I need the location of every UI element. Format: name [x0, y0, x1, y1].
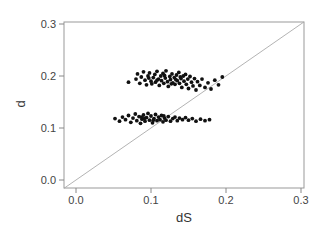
series-upper-cluster — [127, 69, 225, 92]
data-point — [162, 114, 166, 118]
data-point — [177, 71, 181, 75]
data-point — [150, 82, 154, 86]
data-point — [135, 119, 139, 123]
x-tick-label: 0.0 — [68, 194, 83, 206]
y-axis-label: d — [13, 100, 28, 107]
data-point — [187, 87, 191, 91]
y-tick-label: 0.0 — [41, 174, 56, 186]
data-point — [127, 114, 131, 118]
data-point — [148, 118, 152, 122]
data-point — [131, 116, 135, 120]
data-point — [173, 82, 177, 86]
data-point — [138, 81, 142, 85]
y-tick-label: 0.1 — [41, 122, 56, 134]
data-point — [190, 117, 194, 121]
data-point — [148, 71, 152, 75]
data-point — [198, 84, 202, 88]
data-point — [184, 73, 188, 77]
data-point — [166, 85, 170, 89]
data-point — [220, 75, 224, 79]
data-point — [143, 78, 147, 82]
data-point — [193, 77, 197, 81]
data-point — [134, 77, 138, 81]
data-point — [133, 112, 137, 116]
data-point — [139, 75, 143, 79]
data-point — [169, 82, 173, 86]
data-point — [170, 72, 174, 76]
x-axis-label: dS — [176, 210, 192, 225]
data-point — [149, 114, 153, 118]
x-tick-label: 0.3 — [293, 194, 308, 206]
data-point — [166, 115, 170, 119]
data-point — [146, 112, 150, 116]
data-point — [145, 83, 149, 87]
data-point — [208, 118, 212, 122]
data-point — [190, 80, 194, 84]
data-point — [188, 75, 192, 79]
data-point — [174, 78, 178, 82]
x-tick-label: 0.2 — [218, 194, 233, 206]
data-point — [113, 117, 117, 121]
scatter-chart: 0.00.10.20.3 0.00.10.20.3 dS d — [0, 0, 318, 232]
data-point — [178, 81, 182, 85]
data-point — [194, 88, 198, 92]
x-tick-label: 0.1 — [143, 194, 158, 206]
data-point — [209, 87, 213, 91]
data-point — [178, 75, 182, 79]
x-axis: 0.00.10.20.3 — [68, 188, 308, 206]
data-point — [203, 86, 207, 90]
y-tick-label: 0.3 — [41, 18, 56, 30]
data-point — [142, 70, 146, 74]
data-point — [139, 115, 143, 119]
data-point — [194, 119, 198, 123]
identity-line — [64, 22, 304, 188]
data-point — [164, 118, 168, 122]
data-point — [173, 115, 177, 119]
data-point — [200, 77, 204, 81]
data-point — [162, 81, 166, 85]
data-point — [191, 84, 195, 88]
data-point — [153, 73, 157, 77]
data-point — [203, 119, 207, 123]
data-point — [154, 113, 158, 117]
data-point — [184, 116, 188, 120]
data-points — [113, 69, 224, 125]
data-point — [147, 76, 151, 80]
data-point — [187, 118, 191, 122]
data-point — [213, 78, 217, 82]
data-point — [129, 120, 133, 124]
data-point — [163, 74, 167, 78]
data-point — [164, 69, 168, 73]
y-axis: 0.00.10.20.3 — [41, 18, 64, 186]
series-lower-cluster — [113, 112, 211, 126]
data-point — [155, 78, 159, 82]
identity-reference-line — [64, 22, 304, 188]
data-point — [196, 80, 200, 84]
data-point — [157, 84, 161, 88]
data-point — [206, 81, 210, 85]
data-point — [155, 69, 159, 73]
data-point — [136, 72, 140, 76]
data-point — [121, 115, 125, 119]
data-point — [124, 118, 128, 122]
data-point — [182, 79, 186, 83]
data-point — [169, 78, 173, 82]
data-point — [139, 121, 143, 125]
data-point — [217, 83, 221, 87]
y-tick-label: 0.2 — [41, 70, 56, 82]
data-point — [127, 80, 131, 84]
data-point — [118, 119, 122, 123]
data-point — [199, 117, 203, 121]
data-point — [180, 86, 184, 90]
data-point — [184, 82, 188, 86]
data-point — [151, 118, 155, 122]
